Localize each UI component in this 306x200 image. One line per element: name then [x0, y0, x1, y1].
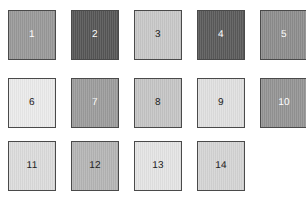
swatch-label: 4: [218, 30, 224, 40]
swatch-label: 10: [278, 98, 290, 108]
swatch-label: 7: [92, 98, 98, 108]
swatch-label: 3: [155, 30, 161, 40]
color-swatch-14[interactable]: 14: [197, 141, 245, 191]
color-swatch-9[interactable]: 9: [197, 78, 245, 128]
swatch-label: 1: [29, 30, 35, 40]
color-swatch-3[interactable]: 3: [134, 10, 182, 60]
swatch-label: 14: [215, 161, 227, 171]
color-swatch-12[interactable]: 12: [71, 141, 119, 191]
color-swatch-8[interactable]: 8: [134, 78, 182, 128]
color-swatch-10[interactable]: 10: [260, 78, 306, 128]
swatch-label: 13: [152, 161, 164, 171]
color-swatch-6[interactable]: 6: [8, 78, 56, 128]
swatch-label: 6: [29, 98, 35, 108]
swatch-label: 12: [89, 161, 101, 171]
color-swatch-7[interactable]: 7: [71, 78, 119, 128]
color-swatch-11[interactable]: 11: [8, 141, 56, 191]
swatch-label: 9: [218, 98, 224, 108]
swatch-label: 5: [281, 30, 287, 40]
color-swatch-2[interactable]: 2: [71, 10, 119, 60]
color-swatch-5[interactable]: 5: [260, 10, 306, 60]
swatch-label: 11: [27, 161, 38, 171]
color-swatch-13[interactable]: 13: [134, 141, 182, 191]
swatch-grid: 1234567891011121314: [0, 0, 306, 200]
swatch-label: 2: [92, 30, 98, 40]
swatch-label: 8: [155, 98, 161, 108]
color-swatch-1[interactable]: 1: [8, 10, 56, 60]
color-swatch-4[interactable]: 4: [197, 10, 245, 60]
